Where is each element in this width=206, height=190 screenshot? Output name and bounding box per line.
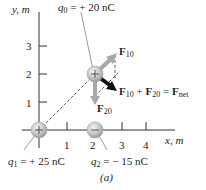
charge-q2 — [87, 122, 103, 138]
y-tick-label-3: 3 — [26, 41, 32, 52]
f10-label: F10 — [119, 46, 134, 59]
electric-force-diagram: y, m x, m 3 2 1 1 2 3 4 q0 = + 20 nC q1 … — [0, 0, 206, 190]
leader-line-q0 — [81, 12, 93, 70]
x-tick-label-3: 3 — [119, 140, 125, 151]
y-axis-label: y, m — [12, 4, 30, 15]
y-tick-label-1: 1 — [26, 98, 32, 109]
f20-label: F20 — [97, 103, 112, 116]
charge-q1 — [31, 122, 47, 138]
dashed-line-q1-q0 — [39, 74, 95, 130]
x-tick-label-1: 1 — [64, 140, 70, 151]
figure-caption: (a) — [100, 172, 113, 183]
fnet-equation-label: F10 + F20 = Fnet — [119, 86, 188, 99]
q0-label: q0 = + 20 nC — [58, 2, 115, 15]
q1-label: q1 = + 25 nC — [8, 156, 65, 169]
x-tick-label-4: 4 — [143, 140, 149, 151]
dashed-lines — [39, 55, 120, 130]
f10-arrow — [99, 53, 117, 70]
x-tick-label-2: 2 — [90, 140, 96, 151]
x-axis-label: x, m — [165, 135, 183, 146]
q2-label: q2 = − 15 nC — [91, 156, 148, 169]
y-tick-label-2: 2 — [26, 69, 32, 80]
charge-q0 — [87, 66, 103, 82]
fnet-arrow — [100, 78, 117, 91]
